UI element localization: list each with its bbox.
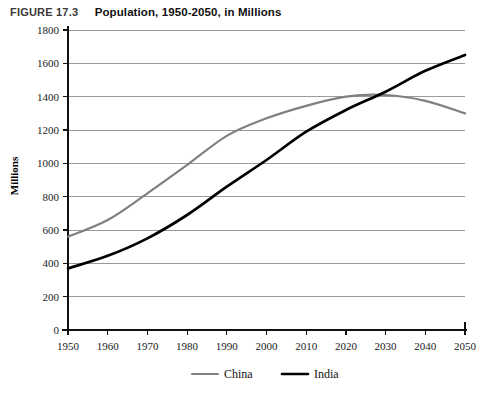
legend-group: ChinaIndia: [192, 367, 339, 381]
x-tick-label: 1980: [176, 340, 199, 352]
legend-label-china: China: [224, 367, 253, 381]
series-line-china: [68, 95, 465, 237]
y-axis-title: Millions: [8, 156, 20, 195]
data-series-group: [68, 55, 465, 268]
gridlines-group: [68, 30, 465, 330]
y-tick-label: 800: [43, 191, 60, 203]
x-tick-labels-group: 1950196019701980199020002010202020302040…: [57, 340, 477, 352]
y-tick-label: 400: [43, 257, 60, 269]
line-chart: 020040060080010001200140016001800 195019…: [0, 14, 478, 395]
y-tick-label: 1600: [37, 57, 60, 69]
x-tick-label: 2020: [335, 340, 358, 352]
y-tick-labels-group: 020040060080010001200140016001800: [37, 24, 60, 336]
y-tick-label: 1200: [37, 124, 60, 136]
x-tick-label: 2040: [414, 340, 437, 352]
y-tick-label: 1400: [37, 91, 60, 103]
x-tick-label: 1950: [57, 340, 80, 352]
series-line-india: [68, 55, 465, 268]
x-tick-label: 2010: [295, 340, 318, 352]
y-tick-label: 1800: [37, 24, 60, 36]
axes-group: [62, 26, 467, 334]
x-tick-label: 1960: [97, 340, 120, 352]
y-tick-label: 0: [54, 324, 60, 336]
x-tick-label: 2050: [454, 340, 477, 352]
x-tick-label: 1970: [136, 340, 159, 352]
y-tick-label: 600: [43, 224, 60, 236]
x-tick-label: 2000: [256, 340, 279, 352]
x-tick-marks-group: [68, 330, 465, 335]
y-tick-label: 1000: [37, 157, 60, 169]
figure-container: FIGURE 17.3 Population, 1950-2050, in Mi…: [0, 0, 478, 395]
y-tick-marks-group: [63, 30, 68, 330]
legend-label-india: India: [314, 367, 339, 381]
y-tick-label: 200: [43, 291, 60, 303]
x-tick-label: 1990: [216, 340, 239, 352]
x-tick-label: 2030: [375, 340, 398, 352]
y-axis-title-group: Millions: [8, 156, 20, 195]
